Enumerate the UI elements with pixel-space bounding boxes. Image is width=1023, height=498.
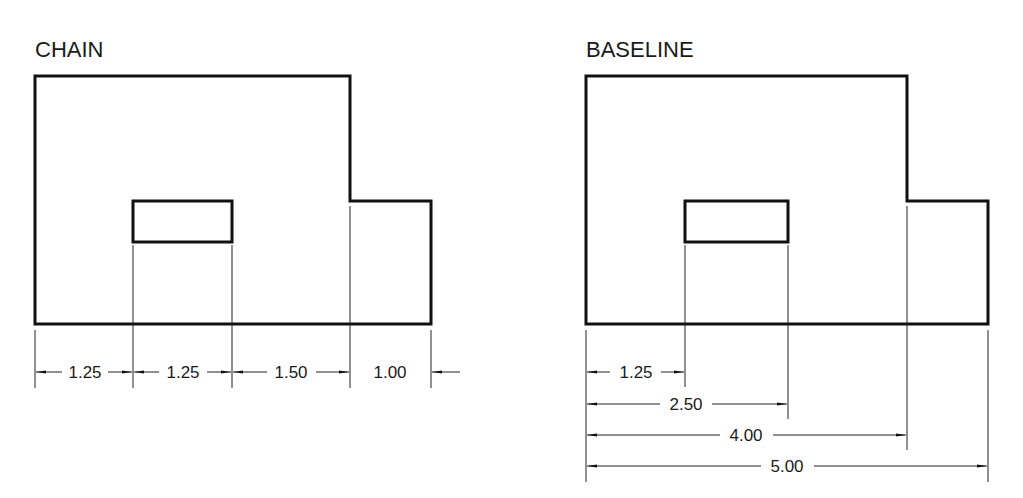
chain-dimension-1: 1.25: [36, 363, 132, 382]
baseline-dimension-1: 1.25: [587, 363, 684, 382]
chain-slot-outline: [133, 201, 232, 242]
baseline-dim-label: 5.00: [770, 457, 803, 476]
chain-dim-label: 1.25: [166, 363, 199, 382]
dimensioning-diagram: CHAIN 1.25 1.25 1.50: [0, 0, 1023, 498]
baseline-dim-label: 4.00: [729, 426, 762, 445]
baseline-dim-label: 1.25: [619, 363, 652, 382]
baseline-dimension-2: 2.50: [587, 395, 787, 414]
baseline-slot-outline: [685, 201, 788, 242]
chain-dim-label: 1.00: [373, 363, 406, 382]
baseline-dim-label: 2.50: [669, 395, 702, 414]
baseline-title: BASELINE: [586, 37, 694, 62]
chain-dimension-2: 1.25: [134, 363, 231, 382]
chain-dimension-4: 1.00: [373, 363, 460, 382]
chain-dim-label: 1.25: [68, 363, 101, 382]
baseline-dimension-3: 4.00: [587, 426, 906, 445]
baseline-extension-lines: [586, 206, 988, 482]
chain-drawing: CHAIN 1.25 1.25 1.50: [35, 37, 460, 388]
chain-dimension-3: 1.50: [233, 363, 349, 382]
chain-title: CHAIN: [35, 37, 103, 62]
baseline-dimension-4: 5.00: [587, 457, 987, 476]
chain-dim-label: 1.50: [274, 363, 307, 382]
baseline-drawing: BASELINE 1.25 2.50 4.00: [586, 37, 988, 482]
